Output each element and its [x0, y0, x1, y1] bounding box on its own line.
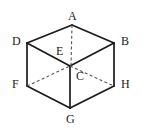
vertex-label-c: C — [76, 70, 84, 82]
cube-edge-FE-hidden — [27, 66, 70, 86]
vertex-label-f: F — [12, 78, 19, 90]
cube-figure-container: ABCDEFGH — [0, 0, 143, 133]
cube-edge-AB-visible — [72, 25, 114, 43]
cube-edge-AE-hidden — [71, 25, 72, 66]
vertex-label-e: E — [56, 45, 63, 57]
vertex-label-d: D — [12, 35, 21, 47]
cube-edge-CB-visible — [70, 43, 114, 66]
vertex-label-g: G — [66, 113, 75, 125]
vertex-label-b: B — [121, 35, 129, 47]
cube-edge-DA-visible — [27, 25, 72, 43]
vertex-label-a: A — [68, 10, 77, 22]
cube-edge-DC-visible — [27, 43, 70, 66]
cube-edge-GH-visible — [70, 86, 114, 108]
vertex-label-h: H — [121, 78, 130, 90]
cube-edge-FG-visible — [27, 86, 70, 108]
